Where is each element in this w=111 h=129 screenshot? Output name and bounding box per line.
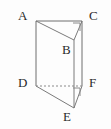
edge-A-B	[36, 21, 74, 40]
vertex-label-F: F	[89, 76, 96, 89]
vertex-label-C: C	[89, 9, 98, 22]
vertex-label-B: B	[62, 43, 71, 56]
vertex-label-E: E	[63, 110, 71, 123]
prism-figure: A B C D E F	[0, 0, 111, 129]
edge-D-E	[36, 86, 74, 108]
vertex-label-A: A	[18, 9, 27, 22]
vertex-label-D: D	[18, 76, 27, 89]
edge-E-F	[74, 86, 82, 108]
edge-B-C	[74, 21, 82, 40]
